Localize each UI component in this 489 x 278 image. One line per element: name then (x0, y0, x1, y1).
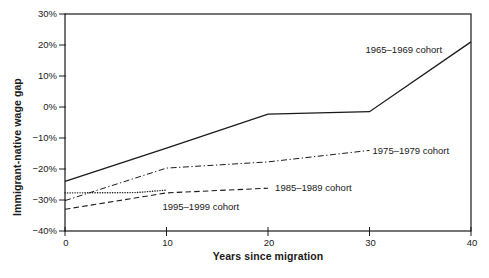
series-line-1965-1969-cohort (65, 42, 471, 182)
series-label-1985-1989-cohort: 1985–1989 cohort (275, 182, 352, 193)
y-tick-label: −40% (32, 225, 57, 236)
y-tick-label: −20% (32, 163, 57, 174)
x-tick-label: 0 (63, 237, 68, 248)
x-tick-label: 10 (162, 237, 173, 248)
y-tick-label: −30% (32, 194, 57, 205)
y-tick-label: 0% (43, 101, 57, 112)
series-label-1995-1999-cohort: 1995–1999 cohort (162, 201, 239, 212)
x-tick-label: 40 (467, 237, 478, 248)
series-label-1975-1979-cohort: 1975–1979 cohort (373, 145, 450, 156)
chart-canvas: 30%20%10%0%−10%−20%−30%−40%0102030401965… (0, 0, 489, 278)
series-line-1995-1999-cohort (65, 190, 167, 193)
wage-gap-line-chart: 30%20%10%0%−10%−20%−30%−40%0102030401965… (0, 0, 489, 278)
x-tick-label: 30 (365, 237, 376, 248)
y-tick-label: 30% (38, 8, 58, 19)
series-label-1965-1969-cohort: 1965–1969 cohort (365, 44, 442, 55)
y-tick-label: −10% (32, 132, 57, 143)
y-axis-title: Immigrant-native wage gap (11, 78, 23, 216)
x-axis-title: Years since migration (65, 250, 471, 262)
x-tick-label: 20 (264, 237, 275, 248)
y-tick-label: 20% (38, 39, 58, 50)
y-tick-label: 10% (38, 70, 58, 81)
